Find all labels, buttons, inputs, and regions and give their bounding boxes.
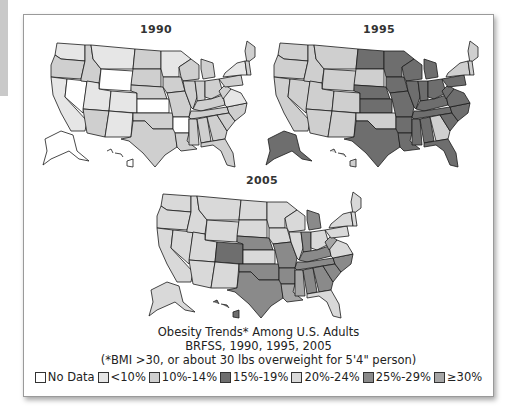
state-sd <box>354 69 384 87</box>
state-me <box>351 192 361 214</box>
state-ia <box>386 77 408 93</box>
state-wy <box>322 69 356 91</box>
state-az <box>306 109 332 137</box>
legend-swatch <box>363 372 374 383</box>
state-az <box>83 109 109 137</box>
us-map-1995 <box>264 35 494 171</box>
legend-item-no-data: No Data <box>35 370 95 384</box>
state-wy <box>205 220 239 242</box>
state-fl <box>201 139 235 167</box>
state-ak <box>43 131 89 165</box>
chart-title: Obesity Trends* Among U.S. Adults <box>24 325 493 339</box>
state-me <box>468 41 478 63</box>
state-ny <box>329 212 353 228</box>
legend-label: <10% <box>111 370 146 384</box>
state-co <box>332 91 360 113</box>
state-hi <box>107 149 133 167</box>
state-ny <box>223 61 247 77</box>
legend-swatch <box>35 372 46 383</box>
state-mi <box>307 210 321 230</box>
legend-item-25-29: 25%-29% <box>363 370 431 384</box>
state-ia <box>269 228 291 244</box>
chart-subtitle: BRFSS, 1990, 1995, 2005 <box>24 339 493 353</box>
legend-label: 25%-29% <box>376 370 431 384</box>
state-ks <box>243 250 275 264</box>
state-mi <box>424 59 438 79</box>
state-ks <box>137 99 169 113</box>
state-ny <box>446 61 470 77</box>
legend-item-20-24: 20%-24% <box>291 370 359 384</box>
state-wy <box>99 69 133 91</box>
state-ak <box>266 131 312 165</box>
state-ks <box>360 99 392 113</box>
legend-swatch <box>98 372 109 383</box>
legend-item-10-14: 10%-14% <box>149 370 217 384</box>
state-me <box>245 41 255 63</box>
legend-item-15-19: 15%-19% <box>220 370 288 384</box>
figure-frame: 1990 1995 2005 Obesity Trends* Among U.S… <box>23 14 494 397</box>
legend-swatch <box>291 372 302 383</box>
legend-item-gte30: ≥30% <box>434 370 482 384</box>
state-nm <box>105 111 133 137</box>
state-pa <box>325 226 349 238</box>
state-nd <box>133 49 161 69</box>
map-panel-1995: 1995 <box>264 21 494 171</box>
state-hi <box>330 149 356 167</box>
state-mi <box>201 59 215 79</box>
legend-item-lt10: <10% <box>98 370 146 384</box>
state-nm <box>211 262 239 288</box>
state-nd <box>356 49 384 69</box>
state-nm <box>328 111 356 137</box>
legend: No Data <10% 10%-14% 15%-19% 20%-24% 25%… <box>24 370 493 384</box>
us-map-2005 <box>142 186 382 322</box>
state-co <box>215 242 243 264</box>
state-co <box>109 91 137 113</box>
legend-swatch <box>434 372 445 383</box>
background-strip <box>0 0 8 96</box>
chart-footnote: (*BMI >30, or about 30 lbs overweight fo… <box>24 353 493 367</box>
us-map-1990 <box>41 35 271 171</box>
chart-caption: Obesity Trends* Among U.S. Adults BRFSS,… <box>24 325 493 367</box>
state-hi <box>213 300 239 318</box>
state-az <box>189 260 215 288</box>
state-fl <box>424 139 458 167</box>
state-pa <box>219 75 243 87</box>
state-pa <box>442 75 466 87</box>
legend-swatch <box>149 372 160 383</box>
state-ar <box>279 268 295 284</box>
legend-label: 15%-19% <box>233 370 288 384</box>
state-sd <box>237 220 267 238</box>
legend-label: 20%-24% <box>304 370 359 384</box>
state-sd <box>131 69 161 87</box>
map-panel-2005: 2005 <box>142 172 382 322</box>
legend-label: ≥30% <box>447 370 482 384</box>
legend-label: 10%-14% <box>162 370 217 384</box>
state-ar <box>396 117 412 133</box>
map-panel-1990: 1990 <box>41 21 271 171</box>
state-ia <box>163 77 185 93</box>
state-ak <box>149 282 195 316</box>
state-nd <box>239 200 267 220</box>
legend-swatch <box>220 372 231 383</box>
state-fl <box>307 290 341 318</box>
legend-label: No Data <box>48 370 95 384</box>
state-ar <box>173 117 189 133</box>
